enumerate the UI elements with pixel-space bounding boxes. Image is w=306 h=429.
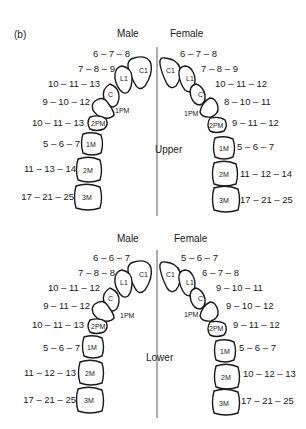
lower-female-label-1PM: 1PM — [184, 311, 199, 318]
upper-female-label-1PM: 1PM — [184, 110, 199, 117]
lower-male-label-1M: 1M — [87, 344, 97, 351]
lower-male-label-2PM: 2PM — [91, 323, 106, 330]
lower-female-label-3M: 3M — [219, 400, 229, 407]
upper-male-label-1PM: 1PM — [115, 107, 130, 114]
lower-male-label-2M: 2M — [85, 370, 95, 377]
upper-male-label-L1: L1 — [120, 75, 128, 82]
upper-male-label-C: C — [108, 91, 113, 98]
lower-female-label-L1: L1 — [186, 279, 194, 286]
lower-female-teeth: C1 L1 C 1PM 2PM 1M 2M 3M — [160, 262, 240, 415]
upper-female-label-C1: C1 — [166, 67, 175, 74]
upper-male-label-2M: 2M — [83, 167, 93, 174]
upper-male-label-1M: 1M — [86, 141, 96, 148]
upper-female-label-3M: 3M — [219, 197, 229, 204]
upper-male-label-2PM: 2PM — [91, 120, 106, 127]
tooth-eruption-diagram: (b) Male Female Upper 6 – 7 – 8 7 – 8 – … — [0, 0, 306, 429]
lower-male-label-C1: C1 — [139, 271, 148, 278]
upper-female-label-L1: L1 — [186, 75, 194, 82]
lower-female-label-C: C — [198, 295, 203, 302]
lower-male-label-C: C — [108, 295, 113, 302]
upper-male-label-3M: 3M — [82, 194, 92, 201]
upper-female-teeth: C1 L1 C 1PM 2PM 1M 2M 3M — [160, 58, 240, 212]
lower-female-label-2PM: 2PM — [209, 325, 224, 332]
lower-female-label-C1: C1 — [166, 271, 175, 278]
lower-male-label-L1: L1 — [120, 279, 128, 286]
lower-male-label-3M: 3M — [84, 397, 94, 404]
upper-male-label-C1: C1 — [139, 67, 148, 74]
lower-female-label-2M: 2M — [221, 374, 231, 381]
lower-male-label-1PM: 1PM — [120, 312, 135, 319]
upper-female-label-2PM: 2PM — [209, 122, 224, 129]
dental-arches-drawing: C1 L1 C 1PM 2PM 1M 2M 3M C1 L1 C 1PM 2PM… — [0, 0, 306, 429]
lower-male-teeth: C1 L1 C 1PM 2PM 1M 2M 3M — [77, 261, 152, 413]
upper-female-label-2M: 2M — [219, 171, 229, 178]
upper-female-label-C: C — [198, 91, 203, 98]
upper-female-label-1M: 1M — [219, 145, 229, 152]
upper-male-teeth: C1 L1 C 1PM 2PM 1M 2M 3M — [75, 57, 152, 210]
lower-female-label-1M: 1M — [220, 348, 230, 355]
